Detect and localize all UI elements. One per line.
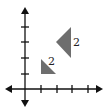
large-triangle (56, 27, 71, 58)
arrow-down-icon (21, 100, 29, 107)
coordinate-plane: 2 2 (0, 0, 107, 109)
arrow-right-icon (96, 85, 103, 93)
arrow-up-icon (21, 7, 29, 14)
large-triangle-label: 2 (73, 36, 80, 49)
arrow-left-icon (5, 85, 12, 93)
small-triangle-label: 2 (48, 55, 55, 68)
